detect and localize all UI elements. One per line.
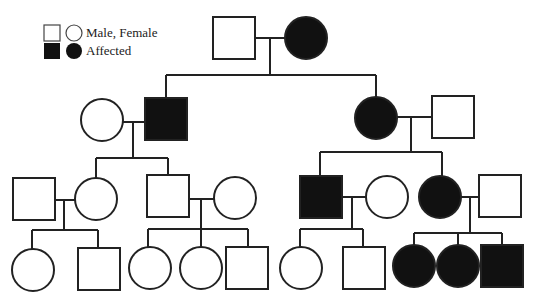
affected-female-circle-icon-IV-9 [437,245,479,287]
legend-male-icon [44,25,60,41]
female-circle-icon-IV-3 [129,247,171,289]
male-square-icon-II-4 [432,96,474,138]
female-circle-icon-II-1 [81,99,123,141]
male-square-icon-III-3 [147,175,189,217]
male-square-icon-IV-7 [343,247,385,289]
female-circle-icon-III-6 [366,176,408,218]
legend-affected-female-icon [66,43,82,59]
male-square-icon-IV-2 [78,248,120,290]
legend-female-icon [66,25,82,41]
female-circle-icon-III-2 [75,178,117,220]
affected-male-square-icon-III-5 [300,176,342,218]
affected-female-circle-icon-III-7 [419,176,461,218]
legend [44,25,82,59]
affected-male-square-icon-II-2 [145,98,187,140]
female-circle-icon-IV-1 [12,249,54,291]
male-square-icon-IV-5 [226,247,268,289]
female-circle-icon-III-4 [214,177,256,219]
affected-female-circle-icon-I-2 [285,17,327,59]
legend-label-male-female: Male, Female [86,25,157,41]
legend-label-affected: Affected [86,43,131,59]
affected-male-square-icon-IV-10 [481,245,523,287]
male-square-icon-III-8 [479,175,521,217]
affected-female-circle-icon-II-3 [355,97,397,139]
male-square-icon-III-1 [13,178,55,220]
pedigree-chart [0,0,535,303]
legend-affected-male-icon [44,43,60,59]
female-circle-icon-IV-6 [280,247,322,289]
female-circle-icon-IV-4 [180,247,222,289]
male-square-icon-I-1 [213,17,255,59]
affected-female-circle-icon-IV-8 [393,245,435,287]
